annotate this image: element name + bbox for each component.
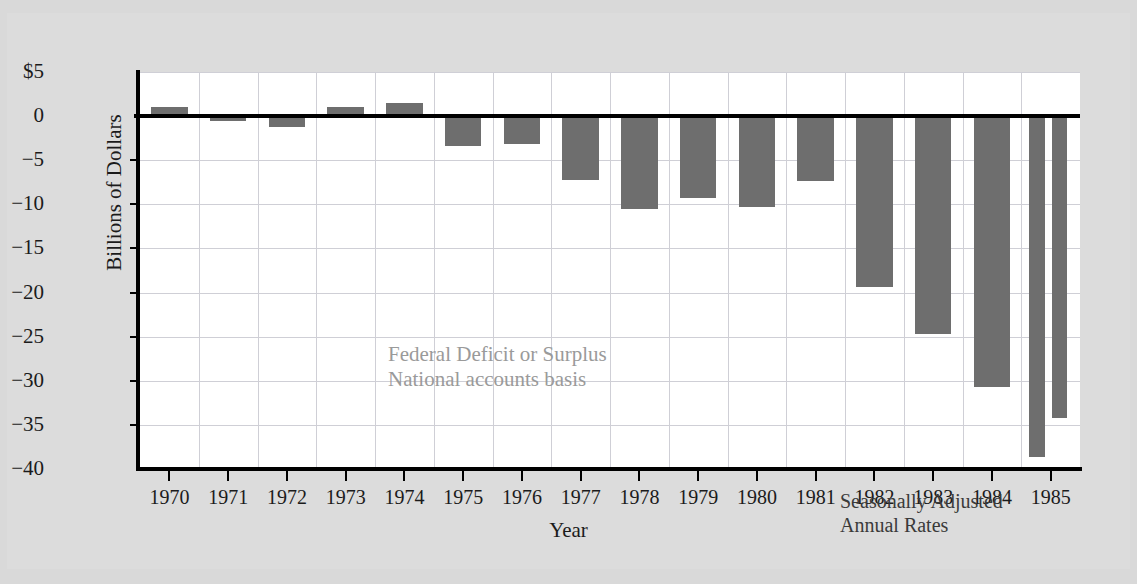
x-tick	[697, 471, 699, 481]
bar-1982	[856, 116, 892, 287]
bar-1977	[562, 116, 598, 180]
gridline-vertical	[610, 72, 611, 469]
x-tick	[168, 471, 170, 481]
gridline-vertical	[434, 72, 435, 469]
bar-1980	[739, 116, 775, 207]
y-tick-label: −15	[0, 237, 44, 258]
y-tick-label: −10	[0, 193, 44, 214]
gridline-vertical	[375, 72, 376, 469]
x-tick-label: 1973	[316, 487, 376, 507]
x-tick-label: 1980	[727, 487, 787, 507]
y-axis-spine	[136, 70, 140, 471]
x-tick-label: 1975	[433, 487, 493, 507]
x-tick	[462, 471, 464, 481]
x-tick	[227, 471, 229, 481]
gridline-vertical	[904, 72, 905, 469]
y-tick	[130, 247, 140, 249]
y-tick-label: −35	[0, 414, 44, 435]
y-tick-label: $5	[0, 61, 44, 82]
x-tick	[815, 471, 817, 481]
x-tick-label: 1977	[551, 487, 611, 507]
series-caption: Federal Deficit or Surplus National acco…	[388, 342, 607, 392]
x-tick	[345, 471, 347, 481]
gridline-vertical	[845, 72, 846, 469]
y-tick	[130, 380, 140, 382]
gridline-vertical	[551, 72, 552, 469]
gridline-vertical	[1021, 72, 1022, 469]
x-tick	[756, 471, 758, 481]
x-tick-label: 1972	[257, 487, 317, 507]
x-tick	[932, 471, 934, 481]
chart-page: Federal Deficit or Surplus National acco…	[0, 0, 1137, 584]
bar-1979	[680, 116, 716, 198]
x-tick-label: 1971	[198, 487, 258, 507]
y-tick-label: −30	[0, 370, 44, 391]
y-tick-label: −25	[0, 326, 44, 347]
x-tick	[1050, 471, 1052, 481]
bar-1976	[504, 116, 540, 144]
x-tick	[286, 471, 288, 481]
x-tick	[521, 471, 523, 481]
cropped-title	[0, 0, 1137, 3]
x-tick-label: 1979	[668, 487, 728, 507]
bar-1985-second	[1052, 116, 1067, 418]
gridline-vertical	[199, 72, 200, 469]
x-tick	[403, 471, 405, 481]
y-tick	[130, 203, 140, 205]
x-tick-label: 1970	[139, 487, 199, 507]
gridline-vertical	[493, 72, 494, 469]
y-tick-label: −40	[0, 458, 44, 479]
x-tick-label: 1978	[609, 487, 669, 507]
y-tick-label: 0	[0, 105, 44, 126]
gridline-vertical	[316, 72, 317, 469]
gridline-vertical	[728, 72, 729, 469]
y-tick	[130, 424, 140, 426]
x-tick	[873, 471, 875, 481]
x-tick-label: 1981	[786, 487, 846, 507]
bar-1978	[621, 116, 657, 209]
x-tick	[580, 471, 582, 481]
x-axis-spine	[136, 467, 1082, 471]
x-tick-label: 1974	[374, 487, 434, 507]
gridline-vertical	[786, 72, 787, 469]
y-tick	[130, 292, 140, 294]
gridline-vertical	[963, 72, 964, 469]
x-tick	[638, 471, 640, 481]
rate-note: Seasonally Adjusted Annual Rates	[840, 490, 1003, 537]
gridline-vertical	[258, 72, 259, 469]
gridline-vertical	[669, 72, 670, 469]
bar-1975	[445, 116, 481, 146]
y-axis-title: Billions of Dollars	[102, 73, 127, 313]
bar-1981	[797, 116, 833, 181]
bar-1985-first	[1029, 116, 1044, 457]
x-tick-label: 1985	[1021, 487, 1081, 507]
y-tick	[130, 159, 140, 161]
x-tick	[991, 471, 993, 481]
y-tick	[130, 336, 140, 338]
plot-area: Federal Deficit or Surplus National acco…	[140, 72, 1080, 469]
y-tick-label: −5	[0, 149, 44, 170]
bar-1983	[915, 116, 951, 334]
y-tick-label: −20	[0, 282, 44, 303]
bar-1984	[974, 116, 1010, 387]
zero-line	[134, 114, 1080, 118]
x-tick-label: 1976	[492, 487, 552, 507]
